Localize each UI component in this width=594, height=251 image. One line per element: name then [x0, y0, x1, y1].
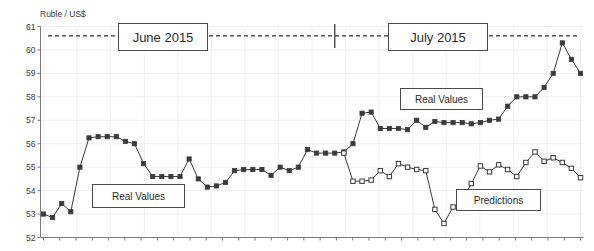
callout-june-label: June 2015 [133, 30, 194, 45]
svg-text:54: 54 [26, 186, 36, 196]
x-axis [41, 238, 584, 241]
svg-text:56: 56 [26, 139, 36, 149]
callout-real-values-left: Real Values [92, 184, 185, 208]
chart-container: 52535455565758596061 Ruble / US$ June 20… [0, 0, 594, 251]
svg-text:52: 52 [26, 233, 36, 243]
callout-predictions-label: Predictions [474, 195, 523, 206]
svg-text:57: 57 [26, 115, 36, 125]
callout-predictions: Predictions [456, 189, 541, 211]
y-axis: 52535455565758596061 [26, 22, 40, 243]
chart-plot: 52535455565758596061 Ruble / US$ [0, 0, 594, 251]
svg-text:53: 53 [26, 209, 36, 219]
svg-text:60: 60 [26, 45, 36, 55]
callout-real-values-left-label: Real Values [112, 191, 165, 202]
callout-july-label: July 2015 [410, 30, 466, 45]
svg-text:55: 55 [26, 162, 36, 172]
callout-real-values-right-label: Real Values [415, 94, 468, 105]
callout-july-2015: July 2015 [388, 23, 488, 51]
y-axis-label: Ruble / US$ [40, 9, 86, 19]
callout-real-values-right: Real Values [400, 88, 483, 110]
svg-text:61: 61 [26, 22, 36, 32]
svg-text:59: 59 [26, 68, 36, 78]
svg-text:58: 58 [26, 92, 36, 102]
callout-june-2015: June 2015 [118, 23, 208, 51]
